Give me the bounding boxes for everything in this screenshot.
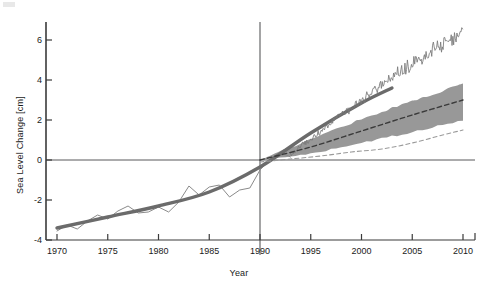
y-tick-label: -4	[34, 235, 42, 245]
y-tick-label: 4	[37, 75, 42, 85]
x-tick-label: 2010	[453, 246, 473, 256]
x-tick-label: 1995	[301, 246, 321, 256]
x-tick-label: 1990	[250, 246, 270, 256]
y-tick-label: 2	[37, 115, 42, 125]
x-axis-label: Year	[0, 268, 478, 278]
x-tick-label: 1985	[199, 246, 219, 256]
y-axis-label: Sea Level Change [cm]	[15, 65, 25, 225]
axis-tick-labels: -4-2024619701975198019851990199520002005…	[34, 35, 473, 256]
y-tick-label: -2	[34, 195, 42, 205]
x-tick-label: 2005	[402, 246, 422, 256]
reference-lines	[46, 22, 475, 255]
chart-plot-area: -4-2024619701975198019851990199520002005…	[0, 0, 478, 290]
y-tick-label: 0	[37, 155, 42, 165]
series-smoothed-reconstruction	[57, 88, 392, 228]
x-tick-label: 1970	[47, 246, 67, 256]
x-tick-label: 2000	[351, 246, 371, 256]
sea-level-change-figure: -4-2024619701975198019851990199520002005…	[0, 0, 478, 290]
x-tick-label: 1980	[148, 246, 168, 256]
x-tick-label: 1975	[98, 246, 118, 256]
y-tick-label: 6	[37, 35, 42, 45]
